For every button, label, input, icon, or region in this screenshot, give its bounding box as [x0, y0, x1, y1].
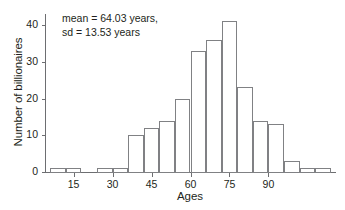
x-tick-label: 75: [214, 178, 244, 190]
histogram-bar: [159, 121, 175, 173]
histogram-bar: [191, 51, 207, 173]
histogram-bar: [268, 124, 284, 173]
histogram-bar: [300, 168, 316, 173]
x-axis-label: Ages: [40, 190, 340, 202]
histogram-bar: [128, 135, 144, 173]
histogram-bar: [97, 168, 113, 173]
annotation-line-mean: mean = 64.03 years,: [62, 11, 158, 25]
x-tick-label: 30: [98, 178, 128, 190]
histogram-bar: [175, 99, 191, 173]
y-tick-label: 10: [12, 128, 38, 140]
histogram-bar: [284, 161, 300, 173]
x-tick-mark: [191, 173, 192, 177]
x-tick-mark: [229, 173, 230, 177]
y-tick-label: 20: [12, 92, 38, 104]
x-tick-label: 15: [59, 178, 89, 190]
y-tick-label: 0: [12, 165, 38, 177]
histogram-bar: [222, 21, 238, 173]
y-tick-label-wrap: 40: [0, 25, 46, 26]
y-tick-label: 40: [12, 18, 38, 30]
y-tick-label-wrap: 10: [0, 135, 46, 136]
histogram-bar: [237, 87, 253, 173]
x-tick-mark: [113, 173, 114, 177]
histogram-bar: [253, 121, 269, 173]
histogram-bar: [315, 168, 331, 173]
y-tick-label-wrap: 20: [0, 99, 46, 100]
histogram-bar: [206, 40, 222, 173]
y-tick-label-wrap: 0: [0, 172, 46, 173]
x-tick-label: 90: [253, 178, 283, 190]
histogram-bar: [144, 128, 160, 173]
stats-annotation: mean = 64.03 years, sd = 13.53 years: [62, 11, 158, 39]
histogram-figure: Number of billionaires Ages mean = 64.03…: [0, 0, 345, 210]
x-tick-label: 60: [176, 178, 206, 190]
x-tick-label: 45: [137, 178, 167, 190]
histogram-bar: [113, 168, 129, 173]
x-tick-mark: [268, 173, 269, 177]
y-tick-label-wrap: 30: [0, 62, 46, 63]
histogram-bar: [50, 168, 66, 173]
x-tick-mark: [74, 173, 75, 177]
y-axis-line: [45, 14, 46, 173]
histogram-bar: [66, 168, 82, 173]
x-tick-mark: [152, 173, 153, 177]
annotation-line-sd: sd = 13.53 years: [62, 25, 158, 39]
y-tick-label: 30: [12, 55, 38, 67]
